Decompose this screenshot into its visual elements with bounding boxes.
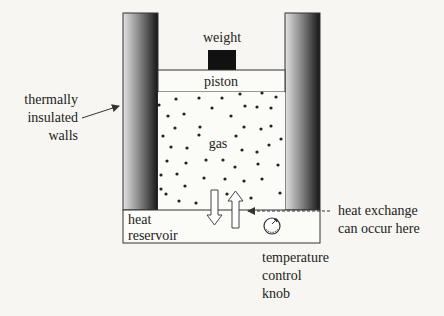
gas-particle	[238, 92, 241, 95]
left-insulated-wall	[123, 13, 158, 210]
weight-block	[208, 50, 236, 70]
gas-particle	[165, 159, 168, 162]
gas-particle	[255, 150, 258, 153]
weight-label: weight	[203, 30, 241, 45]
gas-particle	[274, 95, 277, 98]
walls-label-line3: walls	[48, 128, 78, 143]
gas-particle	[259, 127, 262, 130]
gas-particle	[197, 96, 200, 99]
gas-particle	[278, 191, 281, 194]
gas-particle	[210, 106, 213, 109]
gas-particle	[185, 146, 188, 149]
gas-particle	[240, 148, 243, 151]
gas-particle	[175, 172, 178, 175]
gas-particle	[260, 177, 263, 180]
reservoir-label-line2: reservoir	[128, 228, 178, 243]
gas-particle	[256, 162, 259, 165]
gas-particle	[276, 163, 279, 166]
gas-particle	[255, 105, 258, 108]
knob-label-line1: temperature	[262, 250, 329, 265]
gas-particle	[220, 96, 223, 99]
thermodynamics-diagram: weight piston gas heat reservoir heat ex…	[0, 0, 444, 316]
gas-particle	[183, 184, 186, 187]
walls-pointer-arrow	[82, 106, 119, 118]
gas-particle	[194, 201, 197, 204]
gas-particle	[174, 97, 177, 100]
gas-particle	[184, 161, 187, 164]
gas-particle	[233, 165, 236, 168]
gas-particle	[169, 145, 172, 148]
gas-particle	[221, 158, 224, 161]
gas-particle	[223, 177, 226, 180]
gas-particle	[204, 158, 207, 161]
gas-particle	[177, 199, 180, 202]
gas-particle	[182, 112, 185, 115]
gas-particle	[249, 196, 252, 199]
gas-particle	[197, 133, 200, 136]
gas-particle	[269, 106, 272, 109]
gas-particle	[161, 134, 164, 137]
piston-label: piston	[204, 74, 238, 89]
walls-label-line1: thermally	[24, 92, 78, 107]
gas-particle	[159, 187, 162, 190]
gas-particle	[242, 125, 245, 128]
gas-particle	[279, 137, 282, 140]
gas-label: gas	[209, 136, 228, 151]
reservoir-label-line1: heat	[128, 212, 151, 227]
temperature-control-knob-icon[interactable]	[264, 218, 280, 234]
gas-particle	[166, 114, 169, 117]
gas-particle	[164, 192, 167, 195]
gas-particle	[225, 192, 228, 195]
gas-particle	[260, 91, 263, 94]
gas-particle	[269, 124, 272, 127]
gas-particle	[198, 125, 201, 128]
gas-particle	[267, 143, 270, 146]
right-insulated-wall	[285, 13, 320, 210]
gas-particle	[243, 104, 246, 107]
knob-label-line2: control	[262, 268, 302, 283]
gas-particle	[202, 176, 205, 179]
gas-chamber	[158, 92, 285, 210]
walls-label-line2: insulated	[27, 110, 78, 125]
heat-exchange-label-line1: heat exchange	[338, 203, 418, 218]
gas-particle	[234, 134, 237, 137]
gas-particle	[242, 179, 245, 182]
heat-exchange-label-line2: can occur here	[338, 221, 420, 236]
gas-particle	[157, 103, 160, 106]
gas-particle	[229, 114, 232, 117]
knob-label-line3: knob	[262, 286, 290, 301]
gas-particle	[173, 126, 176, 129]
gas-particle	[159, 173, 162, 176]
